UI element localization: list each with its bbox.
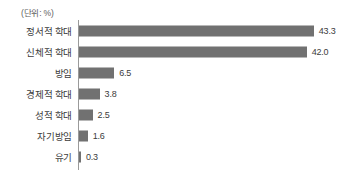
value-label: 42.0: [312, 47, 329, 57]
plot-area: 정서적 학대 43.3 신체적 학대 42.0 방임 6.5 경제적 학대: [0, 20, 359, 172]
table-row: 자기방임 1.6: [0, 125, 359, 146]
bar-group: 0.3: [79, 151, 98, 162]
table-row: 정서적 학대 43.3: [0, 20, 359, 41]
unit-note-label: (단위: %): [21, 6, 54, 18]
value-label: 2.5: [98, 110, 110, 120]
bar: [79, 151, 81, 162]
bar-group: 43.3: [79, 25, 336, 36]
table-row: 유기 0.3: [0, 146, 359, 167]
value-label: 3.8: [105, 89, 117, 99]
value-label: 43.3: [319, 26, 336, 36]
category-label: 자기방임: [37, 129, 72, 143]
bar-group: 42.0: [79, 46, 328, 57]
bar-group: 2.5: [79, 109, 110, 120]
value-label: 0.3: [86, 152, 98, 162]
category-label: 정서적 학대: [26, 24, 72, 38]
value-label: 1.6: [93, 131, 105, 141]
bar-group: 3.8: [79, 88, 117, 99]
table-row: 성적 학대 2.5: [0, 104, 359, 125]
table-row: 신체적 학대 42.0: [0, 41, 359, 62]
category-label: 경제적 학대: [26, 87, 72, 101]
bar: [79, 25, 314, 36]
value-label: 6.5: [119, 68, 131, 78]
table-row: 방임 6.5: [0, 62, 359, 83]
category-label: 성적 학대: [35, 108, 72, 122]
category-label: 방임: [55, 66, 72, 80]
category-label: 신체적 학대: [26, 45, 72, 59]
bar: [79, 88, 100, 99]
bar-group: 1.6: [79, 130, 105, 141]
bar: [79, 130, 88, 141]
bar-group: 6.5: [79, 67, 131, 78]
bar: [79, 67, 114, 78]
table-row: 경제적 학대 3.8: [0, 83, 359, 104]
bar: [79, 109, 93, 120]
bar-chart: (단위: %) 정서적 학대 43.3 신체적 학대 42.0 방임 6.5: [0, 0, 359, 183]
category-label: 유기: [55, 150, 72, 164]
bar: [79, 46, 307, 57]
